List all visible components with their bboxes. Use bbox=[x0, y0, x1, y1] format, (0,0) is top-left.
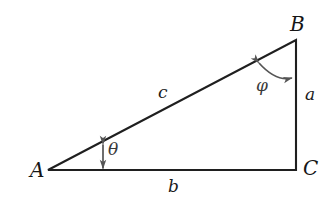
triangle-figure: A B C c b a θ φ bbox=[0, 0, 334, 199]
vertex-label-a: A bbox=[30, 160, 44, 180]
vertex-label-b: B bbox=[290, 14, 305, 34]
side-label-a: a bbox=[305, 86, 315, 103]
vertex-label-c: C bbox=[303, 158, 318, 178]
triangle-outline bbox=[48, 40, 296, 170]
side-label-c: c bbox=[158, 84, 168, 101]
angle-label-phi: φ bbox=[256, 77, 268, 94]
side-label-b: b bbox=[168, 178, 179, 195]
angle-label-theta: θ bbox=[108, 141, 118, 158]
